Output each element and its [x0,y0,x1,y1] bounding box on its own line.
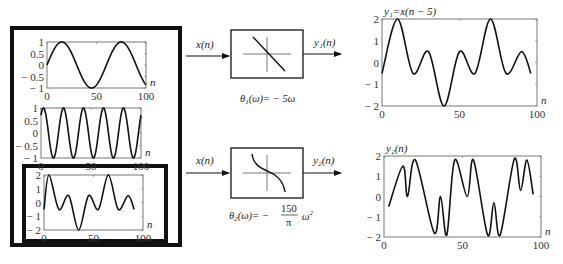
svg-text:0: 0 [44,90,50,102]
system-1: x(n) y₁(n) θ1(ω)= − 5ω [186,30,341,106]
svg-text:n: n [147,218,153,230]
svg-text:2: 2 [374,13,380,25]
svg-text:1: 1 [33,102,39,114]
svg-text:− 2: − 2 [27,224,41,236]
svg-text:− 1: − 1 [365,78,379,90]
svg-text:100: 100 [533,239,550,251]
svg-text:50: 50 [454,108,466,120]
svg-text:y₂(n): y₂(n) [385,142,408,155]
svg-text:2: 2 [376,150,382,162]
svg-text:− 0.5: − 0.5 [21,71,44,83]
svg-text:0: 0 [33,127,39,139]
svg-text:0: 0 [39,59,45,71]
system-2: x(n) y₂(n) θ2(ω)= − 150 π ω2 [186,148,341,228]
svg-text:50: 50 [91,90,103,102]
svg-text:50: 50 [86,160,98,172]
svg-text:ω2: ω2 [302,209,313,222]
svg-text:1: 1 [36,183,42,195]
plot-input-sum: 210− 1− 2050100n [27,169,153,244]
svg-text:0.5: 0.5 [24,115,38,127]
svg-text:150: 150 [281,203,297,214]
svg-text:n: n [545,225,551,237]
svg-text:50: 50 [88,232,100,244]
svg-text:1: 1 [374,35,380,47]
svg-text:1: 1 [39,36,45,48]
svg-text:n: n [145,146,151,158]
svg-text:− 1: − 1 [27,210,41,222]
plot-high-frequency-sine: 10.50− 0.5− 1050100n [15,102,151,172]
svg-text:− 2: − 2 [365,100,379,112]
phase-formula-1: θ1(ω)= − 5ω [240,93,295,106]
input-label-2: x(n) [195,154,214,167]
svg-text:50: 50 [457,239,469,251]
svg-text:100: 100 [133,160,150,172]
svg-text:n: n [150,76,156,88]
output-label-2: y₂(n) [312,154,335,167]
svg-text:− 2: − 2 [367,231,381,243]
svg-text:n: n [541,94,547,106]
svg-text:0: 0 [36,197,42,209]
signal-phase-diagram: 10.50− 0.5− 1050100n 10.50− 0.5− 1050100… [0,0,563,264]
output-label-1: y₁(n) [313,36,336,49]
svg-text:100: 100 [135,232,152,244]
svg-text:θ2(ω)= −: θ2(ω)= − [229,210,269,223]
svg-text:y₁=x(n − 5): y₁=x(n − 5) [383,5,437,18]
svg-text:0: 0 [381,239,387,251]
phase-formula-2: θ2(ω)= − 150 π ω2 [229,203,313,228]
svg-text:0: 0 [374,57,380,69]
svg-text:0: 0 [376,191,382,203]
svg-text:2: 2 [36,169,42,181]
svg-text:1: 1 [376,170,382,182]
svg-text:100: 100 [529,108,546,120]
plot-output-y1: 210− 1− 2050100ny₁=x(n − 5) [365,5,547,120]
svg-text:0.5: 0.5 [30,48,44,60]
svg-text:π: π [286,217,292,228]
svg-text:− 1: − 1 [30,82,44,94]
plot-low-frequency-sine: 10.50− 0.5− 1050100n [21,36,156,102]
svg-text:− 0.5: − 0.5 [15,140,38,152]
input-label-1: x(n) [195,38,214,51]
plot-output-y2: 210− 1− 2050100ny₂(n) [367,142,551,251]
svg-text:− 1: − 1 [367,211,381,223]
svg-text:0: 0 [41,232,47,244]
svg-text:100: 100 [138,90,155,102]
svg-text:0: 0 [379,108,385,120]
svg-text:− 1: − 1 [24,152,38,164]
